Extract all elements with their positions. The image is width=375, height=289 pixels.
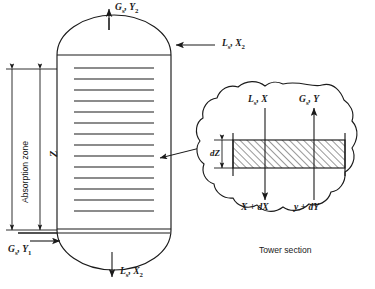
label-liquid-inlet-top: Ls, X2 (222, 39, 245, 51)
label-detail-liquid-in: Ls, X (248, 95, 268, 107)
absorption-tower-diagram: Gs, Y2 Ls, X2 Gs, Y1 Ls, X2 Absorption z… (0, 0, 375, 289)
tower-shell (57, 15, 171, 270)
diagram-canvas (0, 0, 375, 289)
stream-arrows-tower (18, 9, 215, 277)
label-absorption-zone: Absorption zone (20, 141, 30, 203)
absorption-zone-dimension (6, 69, 57, 230)
label-gas-outlet-top: Gs, Y2 (115, 3, 138, 15)
label-detail-dz: dZ (210, 149, 220, 158)
label-detail-gas-out: Gs, Y (299, 95, 319, 107)
label-liquid-outlet-bottom: Ls, X2 (120, 267, 143, 279)
detail-section-element (233, 140, 345, 168)
label-tower-height-z: Z (48, 151, 59, 157)
gas-inlet-arrow (18, 233, 60, 241)
tower-packing-trays (74, 68, 154, 211)
label-detail-liquid-out: X + dX (241, 203, 269, 213)
detail-caption: Tower section (259, 245, 312, 255)
label-detail-gas-in: y + dY (294, 203, 319, 213)
label-gas-inlet-bottom: Gs, Y1 (8, 245, 31, 257)
